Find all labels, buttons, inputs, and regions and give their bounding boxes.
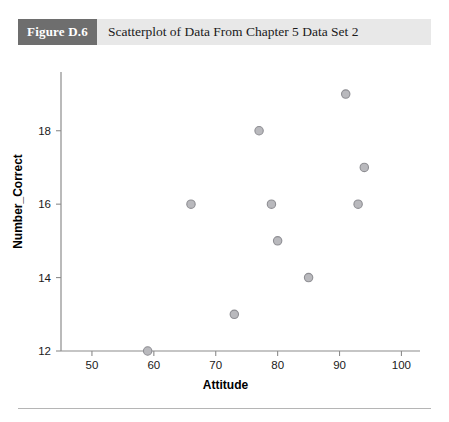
x-tick-label: 100	[392, 359, 411, 371]
y-tick-label: 12	[38, 345, 51, 357]
data-point	[267, 200, 275, 208]
x-tick-label: 60	[147, 359, 160, 371]
axes-group	[61, 72, 420, 351]
x-axis-ticks: 5060708090100	[86, 351, 411, 371]
scatterplot-chart: 5060708090100 12141618 Attitude Number_C…	[0, 52, 449, 397]
y-tick-label: 14	[38, 272, 51, 284]
x-tick-label: 50	[86, 359, 99, 371]
y-tick-label: 16	[38, 198, 51, 210]
y-axis-title: Number_Correct	[11, 154, 25, 249]
data-point	[304, 273, 312, 281]
data-point	[354, 200, 362, 208]
figure-header: Figure D.6 Scatterplot of Data From Chap…	[18, 19, 431, 45]
data-point	[360, 163, 368, 171]
plot-canvas: 5060708090100 12141618 Attitude Number_C…	[0, 52, 449, 397]
data-point	[342, 90, 350, 98]
x-tick-label: 70	[209, 359, 222, 371]
data-point	[273, 237, 281, 245]
x-tick-label: 90	[333, 359, 346, 371]
data-point	[230, 310, 238, 318]
y-tick-label: 18	[38, 125, 51, 137]
data-point	[255, 127, 263, 135]
data-point	[143, 347, 151, 355]
footer-divider	[18, 408, 431, 409]
x-axis-title: Attitude	[203, 378, 249, 392]
data-points-group	[143, 90, 368, 355]
x-tick-label: 80	[271, 359, 284, 371]
y-axis-ticks: 12141618	[38, 125, 61, 357]
data-point	[187, 200, 195, 208]
figure-number-badge: Figure D.6	[18, 19, 97, 45]
figure-caption: Scatterplot of Data From Chapter 5 Data …	[97, 19, 358, 45]
